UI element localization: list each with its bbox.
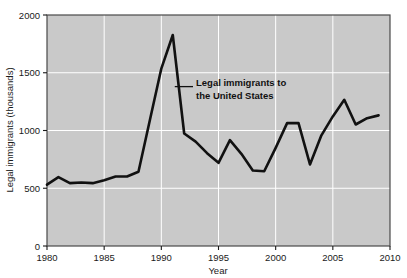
y-tick-label: 2000 <box>19 10 40 21</box>
x-tick-label: 1990 <box>151 252 172 263</box>
chart-canvas: 0500100015002000 19801985199019952000200… <box>0 0 407 278</box>
y-tick-label: 1000 <box>19 125 40 136</box>
x-tick-label: 1980 <box>36 252 57 263</box>
x-axis-title: Year <box>208 265 227 276</box>
x-tick-label: 2010 <box>379 252 400 263</box>
x-tick-label: 2005 <box>322 252 343 263</box>
immigration-line-chart: 0500100015002000 19801985199019952000200… <box>0 0 407 278</box>
y-tick-label: 0 <box>35 241 40 252</box>
x-tick-label: 1985 <box>94 252 115 263</box>
annotation-line-2: the United States <box>196 90 274 101</box>
y-axis-title: Legal immigrants (thousands) <box>4 67 15 192</box>
y-tick-label: 1500 <box>19 67 40 78</box>
x-tick-label: 1995 <box>208 252 229 263</box>
annotation-line-1: Legal immigrants to <box>196 77 286 88</box>
y-tick-label: 500 <box>24 183 40 194</box>
x-tick-label: 2000 <box>265 252 286 263</box>
